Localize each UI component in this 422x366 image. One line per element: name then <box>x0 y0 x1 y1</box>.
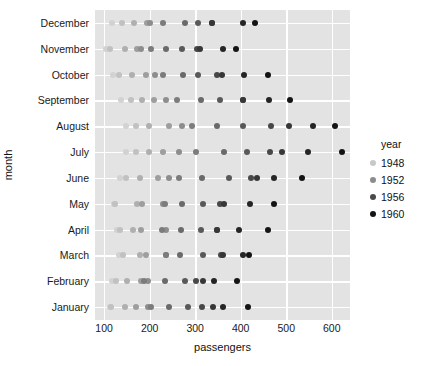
x-tick-100: 100 <box>95 322 113 334</box>
data-point <box>152 72 158 78</box>
data-point <box>116 72 122 78</box>
data-point <box>151 97 157 103</box>
data-point <box>220 304 226 310</box>
data-point <box>226 175 232 181</box>
data-point <box>244 149 250 155</box>
data-point <box>166 175 172 181</box>
data-point <box>108 304 114 310</box>
y-tick-july: July <box>70 146 89 158</box>
data-point <box>271 175 277 181</box>
data-point <box>287 97 293 103</box>
data-point <box>305 149 311 155</box>
flights-stripplot-figure: DecemberNovemberOctoberSeptemberAugustJu… <box>0 0 422 366</box>
data-point <box>240 123 246 129</box>
data-point <box>128 97 134 103</box>
x-tick-600: 600 <box>323 322 341 334</box>
gridline-x-300 <box>195 10 196 320</box>
y-tick-april: April <box>68 224 89 236</box>
data-point <box>211 278 217 284</box>
data-point <box>220 252 226 258</box>
data-point <box>146 123 152 129</box>
data-point <box>246 252 252 258</box>
data-point <box>148 46 154 52</box>
data-point <box>254 175 260 181</box>
y-tick-february: February <box>47 275 89 287</box>
data-point <box>123 175 129 181</box>
data-point <box>176 175 182 181</box>
data-point <box>124 278 130 284</box>
data-point <box>179 201 185 207</box>
data-point <box>210 304 216 310</box>
data-point <box>200 201 206 207</box>
legend-swatch-icon <box>370 194 376 200</box>
data-point <box>107 46 113 52</box>
data-point <box>117 175 123 181</box>
data-point <box>200 252 206 258</box>
data-point <box>221 201 227 207</box>
data-point <box>137 252 143 258</box>
y-tick-september: September <box>38 94 89 106</box>
data-point <box>113 278 119 284</box>
data-point <box>185 304 191 310</box>
data-point <box>139 97 145 103</box>
data-point <box>133 304 139 310</box>
data-point <box>241 72 247 78</box>
y-axis-title: month <box>2 150 14 181</box>
data-point <box>141 278 147 284</box>
data-point <box>138 227 144 233</box>
legend-swatch-icon <box>370 177 376 183</box>
data-point <box>266 97 272 103</box>
gridline-x-600 <box>332 10 333 320</box>
y-tick-october: October <box>52 69 89 81</box>
data-point <box>176 149 182 155</box>
y-tick-january: January <box>52 301 89 313</box>
data-point <box>163 97 169 103</box>
data-point <box>265 72 271 78</box>
gridline-x-200 <box>150 10 151 320</box>
data-point <box>143 72 149 78</box>
data-point <box>143 252 149 258</box>
x-tick-400: 400 <box>232 322 250 334</box>
legend-title: year <box>381 138 422 150</box>
data-point <box>162 278 168 284</box>
legend-label: 1960 <box>381 208 404 220</box>
data-point <box>166 304 172 310</box>
data-point <box>160 72 166 78</box>
gridline-x-400 <box>241 10 242 320</box>
data-point <box>265 227 271 233</box>
legend-label: 1956 <box>381 191 404 203</box>
data-point <box>339 149 345 155</box>
data-point <box>160 149 166 155</box>
legend-item-1948: 1948 <box>368 154 422 171</box>
data-point <box>268 123 274 129</box>
data-point <box>240 97 246 103</box>
data-point <box>252 20 258 26</box>
data-point <box>129 72 135 78</box>
data-point <box>123 149 129 155</box>
y-tick-november: November <box>41 43 89 55</box>
data-point <box>179 123 185 129</box>
data-point <box>130 227 136 233</box>
data-point <box>220 46 226 52</box>
data-point <box>179 46 185 52</box>
data-point <box>133 149 139 155</box>
data-point <box>163 252 169 258</box>
data-point <box>247 201 253 207</box>
data-point <box>195 72 201 78</box>
data-point <box>138 46 144 52</box>
data-point <box>110 72 116 78</box>
data-point <box>122 304 128 310</box>
x-axis-tick-labels: 100200300400500600 <box>95 322 350 336</box>
legend-label: 1948 <box>381 157 404 169</box>
x-tick-500: 500 <box>277 322 295 334</box>
data-point <box>120 252 126 258</box>
data-point <box>131 20 137 26</box>
data-point <box>139 201 145 207</box>
data-point <box>198 227 204 233</box>
data-point <box>236 227 242 233</box>
legend-swatch-icon <box>370 211 376 217</box>
legend: year 1948195219561960 <box>368 138 422 222</box>
data-point <box>133 123 139 129</box>
data-point <box>209 20 215 26</box>
data-point <box>197 46 203 52</box>
